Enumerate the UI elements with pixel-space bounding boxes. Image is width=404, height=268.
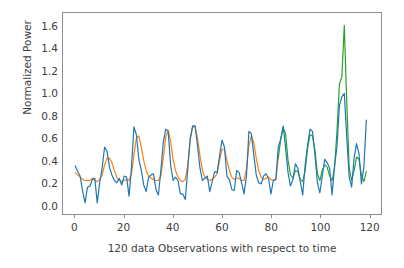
y-tick-label: 0.2	[12, 178, 58, 189]
x-axis-ticks: 020406080100120	[62, 215, 382, 239]
y-tick-label: 0.4	[12, 156, 58, 167]
y-tick-label: 1.2	[12, 66, 58, 77]
x-axis-title: 120 data Observations with respect to ti…	[62, 242, 382, 254]
y-tick-label: 1.4	[12, 43, 58, 54]
x-tick-label: 80	[251, 222, 291, 233]
x-tick-mark	[173, 215, 174, 218]
y-tick-label: 0.0	[12, 201, 58, 212]
x-tick-mark	[74, 215, 75, 218]
x-tick-label: 0	[54, 222, 94, 233]
x-tick-mark	[370, 215, 371, 218]
series-canvas	[63, 13, 381, 214]
x-tick-label: 20	[104, 222, 144, 233]
y-axis-ticks: 0.00.20.40.60.81.01.21.41.6	[8, 12, 58, 215]
x-tick-label: 40	[153, 222, 193, 233]
x-tick-label: 120	[350, 222, 390, 233]
x-tick-label: 60	[202, 222, 242, 233]
y-tick-label: 0.8	[12, 111, 58, 122]
y-tick-label: 1.6	[12, 21, 58, 32]
x-tick-mark	[222, 215, 223, 218]
plot-area	[62, 12, 382, 215]
x-tick-mark	[271, 215, 272, 218]
series-line-observed	[75, 93, 366, 202]
y-tick-label: 1.0	[12, 88, 58, 99]
x-tick-mark	[320, 215, 321, 218]
x-tick-label: 100	[300, 222, 340, 233]
y-tick-label: 0.6	[12, 133, 58, 144]
chart-figure: Normalized Power 0.00.20.40.60.81.01.21.…	[0, 0, 404, 268]
x-tick-mark	[124, 215, 125, 218]
series-line-fitted_test	[278, 25, 366, 181]
